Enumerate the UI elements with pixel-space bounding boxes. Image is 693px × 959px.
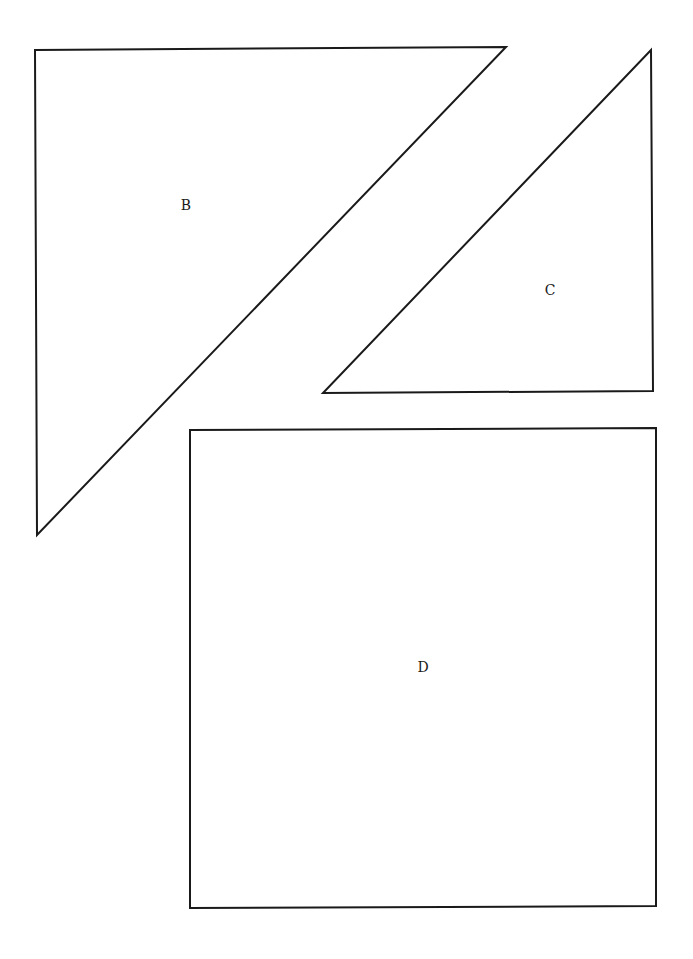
diagram-canvas [0,0,693,959]
label-b: B [181,198,191,212]
label-c: C [545,283,556,297]
label-d: D [417,660,428,674]
